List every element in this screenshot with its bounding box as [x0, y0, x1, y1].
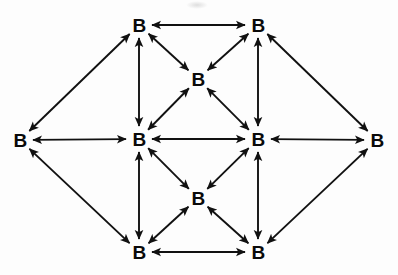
graph-edge — [207, 148, 248, 189]
graph-edge — [208, 207, 249, 244]
graph-edge — [271, 139, 364, 140]
graph-node-top-left[interactable]: B — [131, 16, 146, 35]
graph-edge — [267, 149, 367, 243]
graph-edge — [207, 88, 249, 130]
graph-edge — [208, 34, 249, 71]
graph-edge — [149, 34, 189, 70]
graph-edge — [148, 148, 189, 189]
graph-node-right[interactable]: B — [369, 131, 384, 150]
graph-node-bottom-right[interactable]: B — [250, 243, 265, 262]
graph-edge — [148, 88, 189, 129]
graph-edge — [29, 34, 129, 131]
graph-edge — [33, 139, 126, 140]
edges-group — [29, 25, 367, 252]
graph-edge — [267, 34, 367, 131]
graph-edge — [29, 149, 129, 243]
graph-edge — [149, 207, 189, 243]
graph-node-bottom-left[interactable]: B — [131, 243, 146, 262]
graph-node-lower-mid[interactable]: B — [190, 189, 205, 208]
graph-node-left[interactable]: B — [12, 131, 27, 150]
graph-edges-layer — [0, 0, 398, 275]
diagram-canvas: BBBBBBBBBB — [0, 0, 398, 275]
graph-node-mid-right[interactable]: B — [250, 130, 265, 149]
graph-node-top-right[interactable]: B — [250, 16, 265, 35]
graph-node-mid-left[interactable]: B — [131, 130, 146, 149]
graph-node-upper-mid[interactable]: B — [190, 70, 205, 89]
